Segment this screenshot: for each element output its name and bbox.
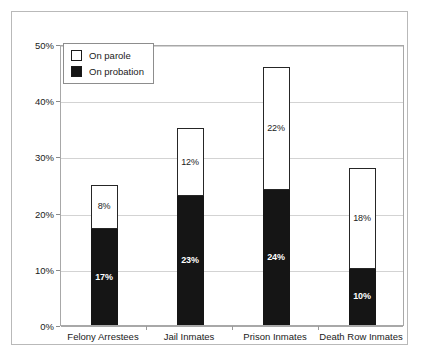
bar-segment-parole[interactable]: 12%: [177, 128, 204, 195]
bar-data-label: 24%: [267, 253, 284, 262]
x-tick-mark: [232, 326, 233, 330]
y-tick-label-20%: 20%: [12, 208, 54, 219]
legend-item-on-probation[interactable]: On probation: [71, 65, 144, 78]
y-tick-label-10%: 10%: [12, 264, 54, 275]
x-tick-label: Felony Arrestees: [60, 331, 146, 342]
bar-group: 23%12%: [177, 44, 204, 325]
y-tick-label-30%: 30%: [12, 152, 54, 163]
bar-segment-parole[interactable]: 8%: [91, 185, 118, 230]
bar-segment-parole[interactable]: 18%: [349, 168, 376, 269]
legend-label-on-parole: On parole: [89, 50, 131, 61]
chart-legend: On parole On probation: [63, 43, 154, 84]
bar-data-label: 12%: [181, 158, 198, 167]
bar-group: 17%8%: [91, 44, 118, 325]
y-tick-mark-0%: [56, 326, 60, 327]
legend-swatch-on-parole: [71, 50, 82, 61]
y-tick-label-50%: 50%: [12, 40, 54, 51]
bar-group: 24%22%: [263, 44, 290, 325]
bar-data-label: 17%: [95, 273, 112, 282]
legend-item-on-parole[interactable]: On parole: [71, 49, 144, 62]
x-tick-mark: [318, 326, 319, 330]
bar-data-label: 8%: [98, 202, 111, 211]
bar-segment-probation[interactable]: 17%: [91, 229, 118, 325]
bar-segment-parole[interactable]: 22%: [263, 67, 290, 191]
bar-data-label: 23%: [181, 256, 198, 265]
bar-data-label: 22%: [267, 124, 284, 133]
y-tick-label-40%: 40%: [12, 96, 54, 107]
plot-area: 17%8%23%12%24%22%10%18%: [60, 45, 404, 326]
x-tick-mark: [146, 326, 147, 330]
bar-segment-probation[interactable]: 24%: [263, 190, 290, 325]
x-tick-label: Prison Inmates: [232, 331, 318, 342]
x-tick-label: Jail Inmates: [146, 331, 232, 342]
bar-data-label: 18%: [353, 214, 370, 223]
x-tick-label: Death Row Inmates: [318, 331, 404, 342]
y-tick-label-0%: 0%: [12, 321, 54, 332]
legend-label-on-probation: On probation: [89, 66, 144, 77]
legend-swatch-on-probation: [71, 66, 82, 77]
bar-group: 10%18%: [349, 44, 376, 325]
bar-data-label: 10%: [353, 292, 370, 301]
bar-segment-probation[interactable]: 23%: [177, 196, 204, 325]
chart-figure-frame: 0%10%20%30%40%50% 17%8%23%12%24%22%10%18…: [11, 11, 408, 345]
bar-segment-probation[interactable]: 10%: [349, 269, 376, 325]
